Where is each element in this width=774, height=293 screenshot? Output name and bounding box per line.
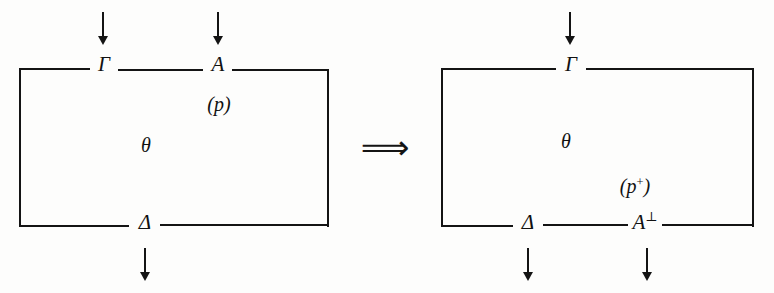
top-edge-seg-2 (586, 68, 754, 70)
proof-net-figure: Γ A (p) θ Δ ⟹ Γ (0, 0, 774, 293)
right-box-label-delta: Δ (522, 212, 534, 233)
port-p-plus-suffix: ) (644, 175, 651, 197)
port-p-plus-superscript: + (637, 175, 644, 189)
bottom-edge-seg-1 (441, 225, 514, 227)
right-box-port-label: (p+) (620, 176, 650, 197)
a-perp-base: A (632, 210, 645, 234)
right-box-label-theta: θ (561, 131, 571, 151)
bottom-edge-seg-3 (662, 224, 754, 226)
top-edge-seg-1 (441, 68, 556, 70)
perp-superscript-icon: ⊥ (645, 209, 657, 224)
bottom-edge-seg-2 (543, 224, 629, 226)
right-box-label-a-perp: A⊥ (632, 210, 657, 233)
right-edge (752, 68, 754, 227)
right-box-label-gamma: Γ (565, 54, 577, 75)
port-p-plus-base: (p (620, 175, 637, 197)
bottom-arrow-a-perp-right (640, 248, 654, 282)
top-arrow-gamma-right (563, 12, 577, 46)
result-box: Γ θ (p+) Δ A⊥ (0, 0, 774, 293)
bottom-arrow-delta-right (521, 248, 535, 282)
left-edge (441, 68, 443, 227)
